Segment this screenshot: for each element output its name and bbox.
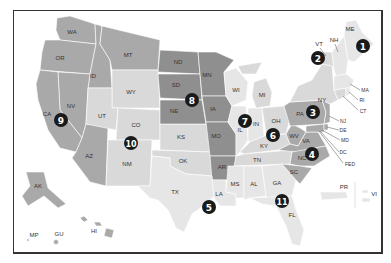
- state-label: TN: [253, 157, 261, 163]
- state-label: NH: [330, 37, 339, 43]
- state-label: WY: [126, 89, 136, 95]
- callout-label: CT: [360, 108, 367, 114]
- state-label: NV: [67, 103, 75, 109]
- territory-pr[interactable]: [320, 192, 348, 200]
- state-label: OK: [179, 158, 188, 164]
- state-label: MO: [211, 133, 221, 139]
- svg-text:9: 9: [58, 116, 64, 126]
- state-label: NY: [318, 97, 326, 103]
- state-label: ID: [90, 73, 97, 79]
- state-ny[interactable]: [290, 64, 338, 104]
- state-label: SC: [290, 169, 299, 175]
- callout-label: NJ: [340, 118, 347, 124]
- state-label: OR: [56, 55, 66, 61]
- territory-vi[interactable]: [362, 190, 370, 202]
- state-ak[interactable]: [22, 172, 66, 208]
- state-label: AK: [34, 183, 42, 189]
- circuit-badge-6[interactable]: 6: [266, 128, 280, 142]
- circuit-badge-1[interactable]: 1: [356, 39, 370, 53]
- state-label: TX: [171, 189, 179, 195]
- state-label: GA: [273, 180, 282, 186]
- state-label: VA: [302, 138, 310, 144]
- callout-label: DC: [339, 149, 347, 155]
- state-label: CA: [43, 111, 51, 117]
- state-label: GU: [55, 231, 64, 237]
- state-ri[interactable]: [346, 88, 350, 96]
- state-label: KY: [260, 143, 268, 149]
- state-label: AZ: [85, 153, 93, 159]
- territory-mp[interactable]: [27, 239, 29, 241]
- callout-label: FED: [345, 161, 355, 167]
- svg-text:7: 7: [242, 117, 248, 127]
- state-label: ME: [346, 26, 355, 32]
- state-label: ND: [174, 59, 183, 65]
- state-label: MT: [124, 52, 133, 58]
- state-label: NE: [170, 108, 178, 114]
- state-label: MP: [30, 232, 39, 238]
- circuit-badge-7[interactable]: 7: [238, 114, 252, 128]
- state-label: WA: [67, 29, 76, 35]
- state-label: CO: [132, 122, 141, 128]
- state-label: NM: [122, 161, 131, 167]
- svg-text:6: 6: [270, 131, 276, 141]
- state-label: IL: [237, 127, 243, 133]
- callout-label: MD: [341, 137, 349, 143]
- svg-text:1: 1: [360, 42, 366, 52]
- state-wy[interactable]: [112, 70, 160, 108]
- state-label: VT: [315, 41, 323, 47]
- svg-text:3: 3: [310, 108, 316, 118]
- state-label: FL: [288, 212, 296, 218]
- svg-text:11: 11: [276, 198, 288, 207]
- state-label: MI: [259, 92, 266, 98]
- state-label: VI: [371, 191, 377, 197]
- state-label: IN: [253, 121, 259, 127]
- state-label: HI: [91, 228, 97, 234]
- svg-text:8: 8: [189, 96, 195, 106]
- svg-text:2: 2: [315, 54, 321, 64]
- circuit-badge-10[interactable]: 10: [124, 136, 138, 150]
- svg-text:10: 10: [125, 140, 137, 149]
- callout-label: MA: [361, 87, 369, 93]
- circuit-badge-9[interactable]: 9: [54, 113, 68, 127]
- state-label: MN: [202, 72, 211, 78]
- svg-text:4: 4: [309, 150, 315, 160]
- territory-gu[interactable]: [54, 240, 59, 245]
- state-label: PA: [296, 111, 304, 117]
- state-label: LA: [215, 191, 222, 197]
- callout-label: RI: [360, 97, 365, 103]
- state-hi[interactable]: [80, 216, 114, 238]
- state-label: AL: [250, 181, 258, 187]
- state-ne[interactable]: [160, 100, 206, 124]
- state-or[interactable]: [40, 40, 96, 74]
- circuit-badge-3[interactable]: 3: [306, 105, 320, 119]
- state-label: UT: [98, 113, 106, 119]
- circuit-badge-4[interactable]: 4: [305, 147, 319, 161]
- state-label: WV: [289, 133, 299, 139]
- circuit-badge-11[interactable]: 11: [275, 194, 289, 208]
- svg-text:5: 5: [206, 203, 212, 213]
- state-label: KS: [177, 134, 185, 140]
- state-label: AR: [218, 164, 227, 170]
- circuit-badge-2[interactable]: 2: [311, 51, 325, 65]
- state-label: SD: [172, 82, 181, 88]
- state-label: PR: [340, 184, 349, 190]
- state-label: MS: [231, 181, 240, 187]
- circuit-badge-5[interactable]: 5: [202, 200, 216, 214]
- state-label: IA: [210, 106, 216, 112]
- circuit-badge-8[interactable]: 8: [185, 93, 199, 107]
- state-ia[interactable]: [202, 96, 232, 122]
- state-ma[interactable]: [334, 74, 354, 90]
- us-circuit-map: WA OR ID MT WY NV CA UT CO AZ NM ND SD N…: [0, 0, 391, 263]
- callout-label: DE: [340, 127, 348, 133]
- state-label: OH: [272, 118, 281, 124]
- state-label: WI: [232, 87, 240, 93]
- callout-labels: MA RI CT NJ DE MD DC FED: [339, 87, 369, 167]
